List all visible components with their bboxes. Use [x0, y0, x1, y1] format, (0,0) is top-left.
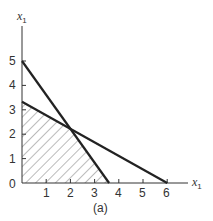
x-tick-label: 6 [163, 187, 170, 199]
origin-label: 0 [9, 178, 16, 190]
figure-caption: (a) [93, 202, 108, 214]
x-tick-label: 1 [43, 187, 50, 199]
y-axis-label: x1 [17, 10, 27, 25]
y-tick-label: 1 [9, 153, 16, 165]
x-axis-sub: 1 [197, 182, 201, 191]
y-axis-sub: 1 [22, 16, 26, 25]
y-tick-label: 5 [9, 55, 16, 67]
y-tick-label: 3 [9, 104, 16, 116]
x-axis-label: x1 [192, 176, 202, 191]
x-tick-label: 5 [139, 187, 146, 199]
x-tick-label: 2 [67, 187, 74, 199]
x-tick-label: 3 [91, 187, 98, 199]
y-tick-label: 4 [9, 79, 16, 91]
lp-feasible-region-diagram [0, 0, 213, 221]
y-tick-label: 2 [9, 128, 16, 140]
x-tick-label: 4 [115, 187, 122, 199]
